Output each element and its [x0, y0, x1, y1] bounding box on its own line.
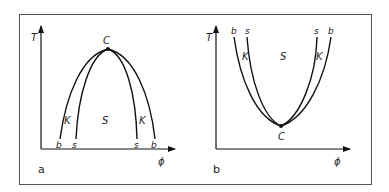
phase-diagram-figure: T ϕ C K S K b s s b a T ϕ C K S K b [0, 0, 389, 192]
spinodal-end-label-right: s [314, 26, 319, 36]
region-label-k-right: K [139, 115, 147, 126]
y-axis-label: T [206, 32, 213, 43]
critical-point [106, 47, 110, 51]
spinodal-end-label-left: s [245, 26, 250, 36]
region-label-s: S [102, 115, 109, 126]
spinodal-end-label-right: s [134, 140, 139, 150]
binodal-end-label-right: b [328, 26, 334, 36]
critical-point-label: C [278, 131, 285, 142]
panel-b: T ϕ C K S K b s s b b [206, 26, 350, 176]
binodal-end-label-left: b [56, 140, 62, 150]
x-axis-label: ϕ [334, 156, 341, 167]
panel-label-a: a [38, 163, 45, 176]
spinodal-end-label-left: s [72, 140, 77, 150]
y-axis-label: T [31, 32, 38, 43]
critical-point [279, 124, 283, 128]
panel-a: T ϕ C K S K b s s b a [31, 26, 175, 176]
region-label-k-left: K [64, 115, 72, 126]
panel-label-b: b [213, 163, 220, 176]
binodal-end-label-right: b [151, 140, 157, 150]
critical-point-label: C [103, 35, 110, 46]
x-axis-label: ϕ [158, 156, 165, 167]
binodal-end-label-left: b [231, 26, 237, 36]
region-label-k-right: K [316, 51, 324, 62]
figure-frame [20, 15, 372, 185]
region-label-s: S [280, 51, 287, 62]
